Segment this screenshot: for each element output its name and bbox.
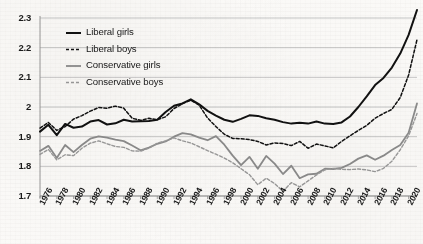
y-axis-tick-label: 1.8 <box>5 160 31 171</box>
legend-swatches <box>66 33 81 83</box>
series-line-conservative-boys <box>40 114 417 192</box>
y-axis-tick-label: 2.2 <box>5 42 31 53</box>
y-axis-tick-label: 2.1 <box>5 71 31 82</box>
legend-label-conservative-boys: Conservative boys <box>86 76 163 87</box>
y-axis-tick-label: 1.7 <box>5 190 31 201</box>
y-axis-tick-label: 2 <box>5 101 31 112</box>
data-series <box>40 10 417 191</box>
legend-label-liberal-girls: Liberal girls <box>86 26 134 37</box>
legend-label-conservative-girls: Conservative girls <box>86 59 160 70</box>
legend-label-liberal-boys: Liberal boys <box>86 43 137 54</box>
y-axis-tick-label: 2.3 <box>5 12 31 23</box>
line-chart-plot <box>0 0 423 244</box>
series-line-conservative-girls <box>40 103 417 178</box>
series-line-liberal-boys <box>40 40 417 149</box>
chart-container: 1.71.81.922.12.22.3 19761978198019821984… <box>0 0 423 244</box>
y-axis-tick-label: 1.9 <box>5 131 31 142</box>
